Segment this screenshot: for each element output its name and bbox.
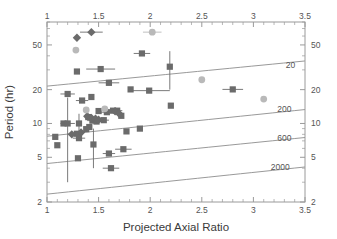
x-axis-title: Projected Axial Ratio (123, 221, 229, 233)
marker-square (86, 124, 92, 130)
x-tick-label-top: 3.5 (299, 11, 311, 21)
x-tick-label-top: 3 (251, 11, 256, 21)
data-point-dark-squares (75, 155, 81, 161)
x-tick-label-top: 1 (45, 11, 50, 21)
data-point-dark-squares (86, 66, 115, 72)
marker-square (108, 165, 114, 171)
y-tick-label-right: 50 (311, 40, 321, 50)
data-point-light-circles (83, 107, 90, 114)
marker-diamond (87, 28, 95, 36)
data-point-dark-squares (167, 51, 173, 89)
data-point-dark-squares (96, 108, 102, 114)
marker-square (106, 150, 112, 156)
marker-square (90, 141, 96, 147)
labels-layer: 111.51.5222.52.5333.53.55050202010105522… (33, 11, 321, 215)
marker-square (127, 86, 133, 92)
x-tick-label-bottom: 2 (148, 205, 153, 215)
data-point-dark-squares (222, 86, 243, 92)
marker-square (52, 134, 58, 140)
marker-square (79, 97, 85, 103)
data-point-dark-squares (86, 124, 92, 130)
data-point-dark-squares (103, 150, 115, 156)
y-tick-label-right: 5 (311, 152, 316, 162)
marker-square (120, 146, 126, 152)
data-point-dark-diamonds (73, 33, 81, 41)
density-curve-density-600 (47, 138, 305, 164)
x-tick-label-bottom: 3.5 (299, 205, 311, 215)
x-tick-label-top: 1.5 (93, 11, 105, 21)
data-point-dark-squares (137, 126, 143, 132)
marker-square (74, 68, 80, 74)
x-tick-label-bottom: 1 (45, 205, 50, 215)
marker-square (76, 120, 82, 126)
x-tick-label-top: 2.5 (196, 11, 208, 21)
data-point-dark-squares (90, 129, 96, 169)
marker-circle (149, 29, 156, 36)
density-curve-density-20 (47, 61, 305, 86)
marker-diamond (73, 33, 81, 41)
y-tick-label-left: 20 (33, 85, 43, 95)
data-point-dark-squares (127, 86, 133, 92)
marker-square (106, 80, 112, 86)
marker-square (167, 64, 173, 70)
marker-square (65, 120, 71, 126)
marker-square (98, 66, 104, 72)
data-point-dark-squares (76, 97, 88, 103)
data-point-dark-diamonds (80, 28, 103, 36)
x-tick-label-top: 2 (148, 11, 153, 21)
y-tick-label-left: 2 (37, 197, 42, 207)
data-point-dark-squares (60, 98, 74, 183)
marker-square (75, 155, 81, 161)
data-point-dark-squares (129, 88, 170, 94)
marker-square (54, 142, 60, 148)
x-tick-label-bottom: 1.5 (93, 205, 105, 215)
marker-circle (72, 47, 79, 54)
data-point-dark-squares (60, 91, 74, 97)
marker-square (139, 50, 145, 56)
y-tick-label-right: 2 (311, 197, 316, 207)
marker-square (65, 91, 71, 97)
data-layer (52, 28, 267, 182)
x-tick-label-bottom: 2.5 (196, 205, 208, 215)
curve-annotation: 2000 (271, 162, 290, 172)
data-point-light-circles (72, 47, 79, 54)
y-tick-label-left: 5 (37, 152, 42, 162)
data-point-light-circles (101, 105, 108, 112)
data-point-dark-squares (115, 146, 132, 152)
marker-circle (260, 96, 267, 103)
marker-circle (83, 107, 90, 114)
data-point-dark-squares (52, 134, 58, 140)
marker-square (96, 108, 102, 114)
data-point-dark-squares (134, 50, 151, 56)
data-point-dark-squares (123, 128, 129, 134)
data-point-light-circles (260, 96, 267, 103)
curve-annotation: 200 (277, 104, 291, 114)
y-tick-label-left: 10 (33, 118, 43, 128)
marker-circle (101, 105, 108, 112)
y-tick-label-right: 20 (311, 85, 321, 95)
marker-square (88, 94, 94, 100)
data-point-light-circles (198, 76, 205, 83)
scatter-plot-figure: 111.51.5222.52.5333.53.55050202010105522… (0, 0, 337, 239)
data-point-dark-squares (103, 165, 120, 171)
y-tick-label-left: 50 (33, 40, 43, 50)
data-point-dark-squares (74, 68, 80, 74)
marker-square (146, 88, 152, 94)
y-tick-label-right: 10 (311, 118, 321, 128)
x-tick-label-bottom: 3 (251, 205, 256, 215)
plot-canvas: 111.51.5222.52.5333.53.55050202010105522… (0, 0, 337, 239)
data-point-dark-squares (88, 94, 94, 100)
marker-square (168, 103, 174, 109)
y-axis-title: Period (hr) (3, 85, 15, 139)
data-point-dark-squares (54, 142, 60, 148)
curve-annotation: 20 (286, 60, 296, 70)
marker-circle (198, 76, 205, 83)
curve-annotation: 600 (277, 133, 291, 143)
marker-square (123, 128, 129, 134)
data-point-light-circles (143, 29, 162, 36)
marker-square (137, 126, 143, 132)
data-point-dark-squares (168, 103, 174, 109)
density-curve-density-2000 (47, 167, 305, 194)
marker-square (230, 86, 236, 92)
